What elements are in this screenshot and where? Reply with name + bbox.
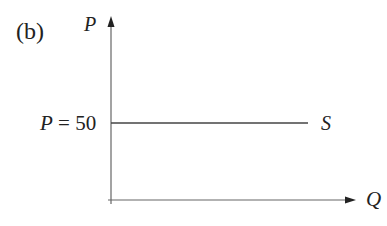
y-axis-label: P [84, 14, 96, 34]
price-value: = 50 [53, 111, 96, 135]
y-axis-arrow-icon [108, 16, 115, 27]
price-variable: P [40, 111, 53, 135]
price-level-label: P = 50 [40, 113, 96, 134]
x-axis-label: Q [366, 189, 381, 210]
supply-diagram: (b) P P = 50 S Q [0, 0, 387, 226]
supply-label: S [321, 113, 331, 133]
x-axis-arrow-icon [345, 197, 356, 204]
panel-label: (b) [16, 19, 44, 43]
